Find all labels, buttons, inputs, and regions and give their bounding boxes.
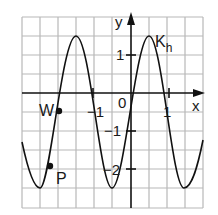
tick-label-ym2: −2 — [103, 161, 120, 178]
point-p-label: P — [56, 170, 67, 187]
origin-label: 0 — [118, 94, 126, 111]
tick-label-ym1: −1 — [104, 122, 121, 139]
function-graph: y x 0 1 −1 −2 −1 1 Kh W P — [0, 0, 218, 215]
tick-label-xm1: −1 — [87, 103, 104, 120]
point-w-label: W — [39, 102, 55, 119]
point-w — [56, 108, 62, 114]
point-p — [47, 163, 53, 169]
y-axis-label: y — [115, 13, 123, 30]
x-axis-label: x — [192, 97, 200, 114]
tick-label-x1: 1 — [163, 103, 171, 120]
tick-label-y1: 1 — [116, 46, 124, 63]
y-axis-arrow-icon — [127, 12, 135, 25]
